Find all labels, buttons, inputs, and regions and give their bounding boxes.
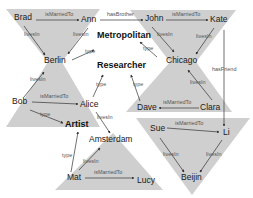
entity-node-clara: Clara (200, 102, 221, 112)
edge-label: isMarriedTo (172, 11, 200, 17)
edge-label: hasBrother (107, 11, 134, 17)
edge-label: livesIn (206, 151, 222, 157)
edge-chicago-metropolitan: type (140, 42, 157, 57)
edge-label: livesIn (163, 151, 179, 157)
edge-label: type (85, 48, 95, 54)
class-node-researcher: Researcher (97, 60, 147, 70)
class-node-artist: Artist (65, 119, 89, 129)
entity-node-sue: Sue (150, 123, 165, 133)
entity-node-berlin: Berlin (44, 55, 66, 65)
edge-label: hasFriend (212, 66, 236, 72)
edge-label: livesIn (30, 76, 46, 82)
edge-label: livesIn (157, 31, 173, 37)
entity-node-brad: Brad (14, 12, 32, 22)
edge-berlin-metropolitan: type (72, 48, 95, 60)
entity-node-bob: Bob (12, 96, 27, 106)
edge-arrow (131, 75, 140, 101)
edge-label: livesIn (24, 31, 40, 37)
entity-node-john: John (145, 13, 164, 23)
edge-label: livesIn (83, 158, 99, 164)
edge-label: isMarriedTo (40, 93, 68, 99)
edge-label: type (40, 111, 50, 117)
entity-node-lucy: Lucy (137, 175, 156, 185)
edge-alice-amsterdam: livesIn (96, 112, 113, 133)
class-node-metropolitan: Metropolitan (97, 30, 151, 40)
entity-node-chicago: Chicago (166, 55, 197, 65)
edge-label: livesIn (97, 114, 113, 120)
entity-node-beijin: Beijin (181, 172, 202, 182)
edge-label: livesIn (190, 79, 206, 85)
entity-node-li: Li (223, 127, 230, 137)
entity-node-dave: Dave (137, 102, 157, 112)
edge-label: type (133, 81, 143, 87)
edge-alice-researcher: type (93, 75, 106, 97)
edge-label: livesIn (73, 31, 89, 37)
entity-node-amsterdam: Amsterdam (89, 134, 132, 144)
entity-node-ann: Ann (81, 14, 96, 24)
edge-label: isMarriedTo (175, 120, 203, 126)
edge-label: isMarriedTo (94, 169, 122, 175)
region-berlin-hourglass (6, 9, 100, 127)
entity-node-mat: Mat (67, 172, 82, 182)
edge-label: type (96, 81, 106, 87)
entity-node-kate: Kate (210, 14, 228, 24)
knowledge-graph-diagram: isMarriedTohasBrotherisMarriedTolivesInl… (0, 0, 253, 198)
entity-node-alice: Alice (80, 99, 99, 109)
edge-label: isMarriedTo (163, 99, 191, 105)
edge-label: livesIn (196, 33, 212, 39)
edge-label: type (62, 152, 72, 158)
edge-label: isMarriedTo (45, 11, 73, 17)
edge-mat-artist: type (62, 132, 78, 172)
edge-label: type (143, 45, 153, 51)
